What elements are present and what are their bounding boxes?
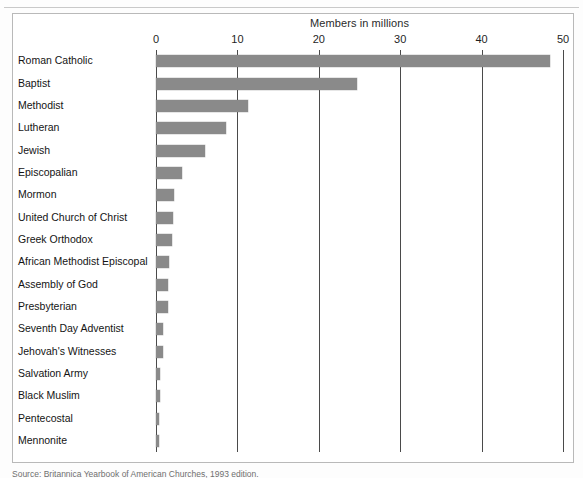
bar — [156, 256, 169, 268]
bar — [156, 323, 163, 335]
gridline-30 — [400, 50, 401, 452]
category-label: Greek Orthodox — [18, 234, 150, 245]
category-label: African Methodist Episcopal — [18, 256, 150, 267]
category-label: Episcopalian — [18, 167, 150, 178]
bar — [156, 189, 174, 201]
category-label: Black Muslim — [18, 390, 150, 401]
category-label: Salvation Army — [18, 368, 150, 379]
bar — [156, 413, 159, 425]
bar — [156, 390, 160, 402]
category-label: Methodist — [18, 100, 150, 111]
category-label: Mormon — [18, 189, 150, 200]
category-label: Jewish — [18, 145, 150, 156]
category-label: Assembly of God — [18, 279, 150, 290]
x-tick-label-20: 20 — [313, 33, 325, 45]
chart-title: Members in millions — [156, 17, 563, 29]
category-label: Seventh Day Adventist — [18, 323, 150, 334]
bar — [156, 212, 173, 224]
bar — [156, 368, 160, 380]
bar — [156, 279, 168, 291]
bar — [156, 55, 550, 67]
category-label: Baptist — [18, 78, 150, 89]
x-tick-label-0: 0 — [153, 33, 159, 45]
bar-chart: Members in millions 01020304050 Roman Ca… — [0, 0, 583, 478]
category-label: Presbyterian — [18, 301, 150, 312]
scanned-page: Members in millions 01020304050 Roman Ca… — [0, 0, 583, 478]
gridline-40 — [482, 50, 483, 452]
gridline-20 — [319, 50, 320, 452]
bar — [156, 100, 248, 112]
bar — [156, 301, 168, 313]
x-tick-label-10: 10 — [231, 33, 243, 45]
category-label: Mennonite — [18, 435, 150, 446]
bar — [156, 145, 205, 157]
x-tick-label-50: 50 — [557, 33, 569, 45]
bar — [156, 122, 226, 134]
bar — [156, 167, 182, 179]
bar — [156, 435, 159, 447]
bar — [156, 234, 172, 246]
category-label: United Church of Christ — [18, 212, 150, 223]
bar — [156, 78, 357, 90]
x-tick-label-30: 30 — [394, 33, 406, 45]
source-note: Source: Britannica Yearbook of American … — [12, 469, 572, 478]
x-tick-label-40: 40 — [475, 33, 487, 45]
bar — [156, 346, 163, 358]
category-label: Roman Catholic — [18, 55, 150, 66]
category-label: Lutheran — [18, 122, 150, 133]
category-label: Jehovah's Witnesses — [18, 346, 150, 357]
gridline-50 — [563, 50, 564, 452]
category-label: Pentecostal — [18, 413, 150, 424]
